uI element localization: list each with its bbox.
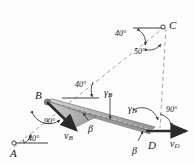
angle-label-D-90: 90° bbox=[166, 106, 177, 114]
pin-joint-A bbox=[12, 141, 16, 145]
angle-label-B-90: 90° bbox=[44, 118, 55, 126]
symbol-gamma-D: γD bbox=[128, 99, 137, 115]
point-label-C: C bbox=[169, 20, 176, 31]
symbol-gamma-B: γB bbox=[104, 83, 112, 99]
angle-label-C-40: 40° bbox=[115, 30, 126, 38]
symbol-beta-B: β bbox=[88, 119, 93, 135]
angle-arc-D-90 bbox=[160, 114, 172, 126]
leader-betaD bbox=[138, 131, 143, 141]
point-label-B: B bbox=[35, 90, 42, 101]
mechanism-diagram: A B C D 40° 40° 90° 40° 50° 90° γB γD β … bbox=[0, 0, 195, 164]
point-label-A: A bbox=[10, 148, 17, 159]
velocity-label-vD: vD bbox=[170, 139, 180, 150]
angle-label-B-40: 40° bbox=[75, 81, 86, 89]
angle-label-C-50: 50° bbox=[134, 48, 145, 56]
velocity-label-vB: vB bbox=[64, 131, 73, 142]
point-label-D: D bbox=[148, 140, 156, 151]
angle-label-A-40: 40° bbox=[28, 135, 39, 143]
pin-joint-C bbox=[161, 25, 165, 29]
symbol-beta-D: β bbox=[132, 141, 137, 157]
